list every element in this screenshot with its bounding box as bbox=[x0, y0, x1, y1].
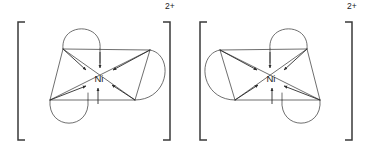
coordinate-bond-3-right bbox=[220, 50, 257, 70]
bracket-close-right bbox=[345, 22, 352, 140]
edge-left-vertical-left bbox=[50, 49, 63, 100]
right-complex-group: 2+ bbox=[200, 1, 357, 140]
coordinate-bond-6-right bbox=[235, 85, 258, 100]
chelate-ring-bottom-left-complex bbox=[50, 100, 88, 123]
chemical-structure-figure: 2+ bbox=[0, 0, 370, 150]
structure-canvas: 2+ bbox=[0, 0, 370, 150]
edge-left-vertical-right bbox=[220, 50, 235, 100]
edge-right-vertical-right bbox=[307, 49, 320, 100]
metal-center-label-left: Ni bbox=[95, 73, 104, 84]
coordinate-bond-1-right bbox=[284, 49, 307, 70]
chelate-ring-top-left-complex bbox=[63, 29, 100, 49]
edge-upper-horizontal-left bbox=[63, 49, 150, 50]
left-chelate-rings bbox=[50, 29, 165, 124]
chelate-ring-right-left-complex bbox=[135, 50, 165, 100]
metal-center-label-right: Ni bbox=[267, 73, 276, 84]
bracket-open-left bbox=[18, 22, 25, 140]
coordinate-bond-4-left bbox=[50, 86, 86, 100]
left-complex-group: 2+ bbox=[18, 1, 175, 140]
chelate-ring-left-right-complex bbox=[205, 50, 235, 100]
chelate-ring-top-right-complex bbox=[270, 29, 307, 49]
right-chelate-rings bbox=[205, 29, 320, 124]
chelate-ring-bottom-right-complex bbox=[282, 100, 320, 123]
coordinate-bond-1-left bbox=[63, 49, 86, 70]
right-complex-bracket bbox=[200, 22, 352, 140]
bracket-close-left bbox=[163, 22, 170, 140]
bracket-open-right bbox=[200, 22, 207, 140]
edge-right-vertical-left bbox=[135, 50, 150, 100]
coordinate-bond-4-right bbox=[284, 86, 320, 100]
charge-label-left: 2+ bbox=[165, 1, 175, 11]
edge-upper-horizontal-right bbox=[220, 49, 307, 50]
coordinate-bond-3-left bbox=[113, 50, 150, 70]
coordinate-bond-6-left bbox=[112, 85, 135, 100]
charge-label-right: 2+ bbox=[347, 1, 357, 11]
